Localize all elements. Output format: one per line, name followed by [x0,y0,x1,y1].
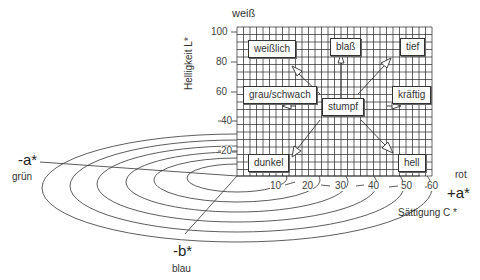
x-tick-30: 30 [335,181,346,191]
blue-label: blau [172,264,191,274]
box-blass: blaß [330,38,361,56]
green-label: grün [12,172,32,182]
box-weisslich: weißlich [248,40,296,58]
box-hell: hell [398,154,426,172]
y-tick-80: 80 [216,57,227,67]
y-tick-100: 100 [211,27,228,37]
y-tick-60: 60 [216,87,227,97]
box-grau-schwach: grau/schwach [243,86,317,104]
x-tick-50: 50 [401,181,412,191]
minus-a-star-label: -a* [18,152,37,167]
x-tick-20: 20 [302,181,313,191]
cielab-lch-diagram: weiß Helligkeit L* 100 80 60 40 20 10 20… [0,0,480,280]
x-tick-10: 10 [270,181,281,191]
chroma-axis-label: Sättigung C * [398,208,457,218]
x-tick-60: 60 [427,181,438,191]
plus-a-star-label: +a* [447,185,470,200]
box-tief: tief [400,38,425,56]
box-stumpf: stumpf [322,98,364,116]
box-dunkel: dunkel [248,154,289,172]
y-tick-40: 40 [221,116,232,126]
minus-b-star-label: -b* [173,243,192,258]
lightness-axis-label: Helligkeit L* [184,37,194,90]
box-kraeftig: kräftig [392,86,431,104]
white-label: weiß [232,8,255,19]
red-label: rot [455,170,467,180]
x-tick-40: 40 [368,181,379,191]
y-tick-20: 20 [221,146,232,156]
